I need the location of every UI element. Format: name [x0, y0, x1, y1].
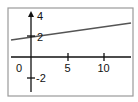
y-label-neg2: -2: [36, 72, 46, 84]
x-label-10: 10: [98, 62, 110, 74]
x-label-5: 5: [65, 62, 71, 74]
y-label-2: 2: [37, 31, 43, 43]
y-label-4: 4: [37, 10, 43, 22]
x-label-0: 0: [16, 62, 22, 74]
chart: 0 5 10 4 2 -2: [0, 0, 138, 102]
chart-frame: [8, 8, 133, 96]
